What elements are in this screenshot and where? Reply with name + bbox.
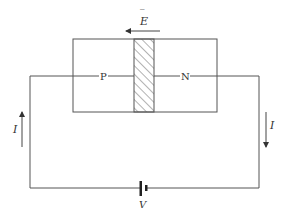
current-left-label: I [12, 123, 18, 136]
current-right-label: I [269, 119, 275, 132]
battery-icon [140, 181, 148, 196]
depletion-region [134, 39, 154, 112]
pn-junction-diagram: E ‾ P N I I V [0, 0, 291, 217]
p-region-label: P [100, 71, 107, 82]
field-vector-bar: ‾ [140, 8, 145, 18]
n-region-label: N [181, 71, 190, 82]
battery-voltage-label: V [139, 199, 148, 210]
